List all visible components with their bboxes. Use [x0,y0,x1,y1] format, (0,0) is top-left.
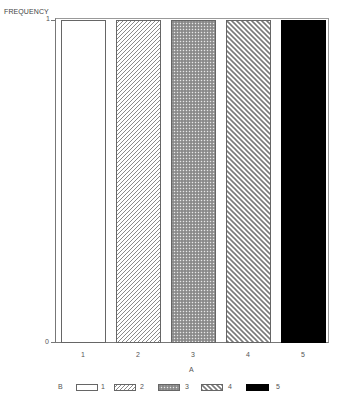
y-tick-1 [51,20,55,21]
legend-label-4: 4 [228,383,232,390]
x-tick-label-3: 3 [191,351,195,358]
x-tick-label-5: 5 [301,351,305,358]
legend-label-5: 5 [276,383,280,390]
bar-3 [171,20,216,343]
y-axis-title: FREQUENCY [4,8,49,15]
bar-1 [61,20,106,343]
x-axis-title: A [189,366,194,373]
y-tick-0 [51,342,55,343]
bar-5 [281,20,326,343]
bar-4 [226,20,271,343]
legend-title: B [58,383,63,390]
legend-label-1: 1 [101,383,105,390]
legend-swatch-5 [246,384,269,391]
y-tick-label-0: 0 [45,338,49,345]
legend-label-2: 2 [140,383,144,390]
y-tick-label-1: 1 [46,15,50,22]
legend-swatch-1 [76,384,98,391]
x-tick-label-2: 2 [136,351,140,358]
bar-2 [116,20,161,343]
x-tick-label-1: 1 [81,351,85,358]
legend-swatch-4 [201,384,223,391]
x-tick-label-4: 4 [246,351,250,358]
legend-label-3: 3 [185,383,189,390]
legend-swatch-3 [158,384,180,391]
legend-swatch-2 [114,384,136,391]
